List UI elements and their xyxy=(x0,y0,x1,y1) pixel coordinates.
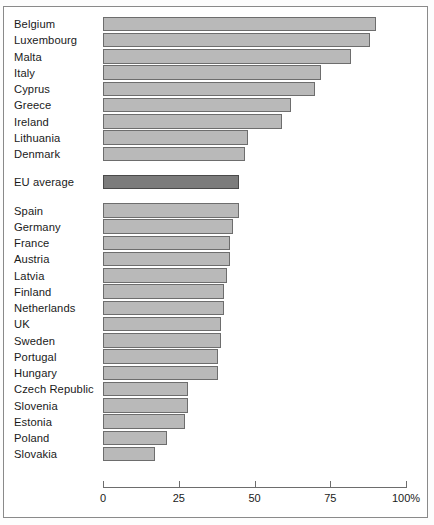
bar-row: Netherlands xyxy=(0,300,434,316)
bar-category-label: Estonia xyxy=(14,416,52,428)
bar-value xyxy=(103,382,188,397)
bar-category-label: Germany xyxy=(14,221,61,233)
x-tick-label: 0 xyxy=(100,492,106,504)
bar-value xyxy=(103,398,188,413)
bar-category-label: Czech Republic xyxy=(14,383,94,395)
bar-row: Hungary xyxy=(0,365,434,381)
x-tick-mark xyxy=(255,481,256,488)
bar-row: Slovakia xyxy=(0,446,434,462)
x-tick-label: 100% xyxy=(392,492,420,504)
bar-row: UK xyxy=(0,316,434,332)
bar-category-label: France xyxy=(14,237,49,249)
bar-category-label: Portugal xyxy=(14,351,56,363)
bar-row: Estonia xyxy=(0,414,434,430)
chart-plot-area: BelgiumLuxembourgMaltaItalyCyprusGreeceI… xyxy=(0,0,434,525)
bar-category-label: Luxembourg xyxy=(14,34,77,46)
chart-container: BelgiumLuxembourgMaltaItalyCyprusGreeceI… xyxy=(0,0,434,525)
bar-row: Spain xyxy=(0,203,434,219)
bar-row: Lithuania xyxy=(0,130,434,146)
bar-category-label: UK xyxy=(14,318,30,330)
bar-value xyxy=(103,65,321,80)
bar-row: Cyprus xyxy=(0,81,434,97)
bar-value xyxy=(103,33,370,48)
bar-row: Sweden xyxy=(0,333,434,349)
bar-category-label: Finland xyxy=(14,286,51,298)
bar-value xyxy=(103,431,167,446)
bar-category-label: Hungary xyxy=(14,367,57,379)
bar-row: Greece xyxy=(0,97,434,113)
bar-value xyxy=(103,349,218,364)
bar-value xyxy=(103,268,227,283)
bar-value xyxy=(103,49,351,64)
bar-row: Italy xyxy=(0,65,434,81)
bar-category-label: Lithuania xyxy=(14,132,60,144)
bar-eu-average xyxy=(103,175,239,190)
bar-value xyxy=(103,301,224,316)
bar-value xyxy=(103,130,248,145)
x-tick-label: 50 xyxy=(248,492,260,504)
bar-row: Finland xyxy=(0,284,434,300)
bar-category-label: Poland xyxy=(14,432,49,444)
bar-row: France xyxy=(0,235,434,251)
x-tick-mark xyxy=(103,481,104,488)
bar-row: Portugal xyxy=(0,349,434,365)
bar-row: EU average xyxy=(0,174,434,190)
bar-value xyxy=(103,82,315,97)
bar-category-label: Cyprus xyxy=(14,83,50,95)
x-tick-mark xyxy=(406,481,407,488)
bar-value xyxy=(103,333,221,348)
bar-row: Ireland xyxy=(0,114,434,130)
bar-category-label: EU average xyxy=(14,176,74,188)
x-tick-mark xyxy=(179,481,180,488)
bar-category-label: Austria xyxy=(14,253,50,265)
bar-value xyxy=(103,447,155,462)
bar-category-label: Sweden xyxy=(14,335,55,347)
bar-value xyxy=(103,317,221,332)
bar-value xyxy=(103,219,233,234)
bar-row: Austria xyxy=(0,251,434,267)
bar-row: Denmark xyxy=(0,146,434,162)
bar-row: Poland xyxy=(0,430,434,446)
bar-value xyxy=(103,17,376,32)
bar-category-label: Ireland xyxy=(14,116,49,128)
bar-row: Malta xyxy=(0,49,434,65)
bar-row: Belgium xyxy=(0,16,434,32)
bar-value xyxy=(103,252,230,267)
bar-row: Slovenia xyxy=(0,398,434,414)
bar-category-label: Denmark xyxy=(14,148,60,160)
bar-value xyxy=(103,366,218,381)
bar-row: Czech Republic xyxy=(0,381,434,397)
x-tick-mark xyxy=(330,481,331,488)
bar-value xyxy=(103,147,245,162)
bar-value xyxy=(103,414,185,429)
bar-category-label: Belgium xyxy=(14,18,55,30)
bar-category-label: Latvia xyxy=(14,270,44,282)
bar-category-label: Slovakia xyxy=(14,448,57,460)
bar-value xyxy=(103,284,224,299)
bar-value xyxy=(103,236,230,251)
bar-row: Germany xyxy=(0,219,434,235)
bar-value xyxy=(103,98,291,113)
bar-value xyxy=(103,203,239,218)
x-tick-label: 75 xyxy=(324,492,336,504)
bar-value xyxy=(103,114,282,129)
bar-category-label: Spain xyxy=(14,205,43,217)
bar-category-label: Greece xyxy=(14,99,51,111)
x-tick-label: 25 xyxy=(173,492,185,504)
bar-category-label: Netherlands xyxy=(14,302,75,314)
bar-row: Latvia xyxy=(0,268,434,284)
bar-row: Luxembourg xyxy=(0,32,434,48)
bar-category-label: Slovenia xyxy=(14,400,58,412)
bar-category-label: Italy xyxy=(14,67,35,79)
bar-category-label: Malta xyxy=(14,51,42,63)
